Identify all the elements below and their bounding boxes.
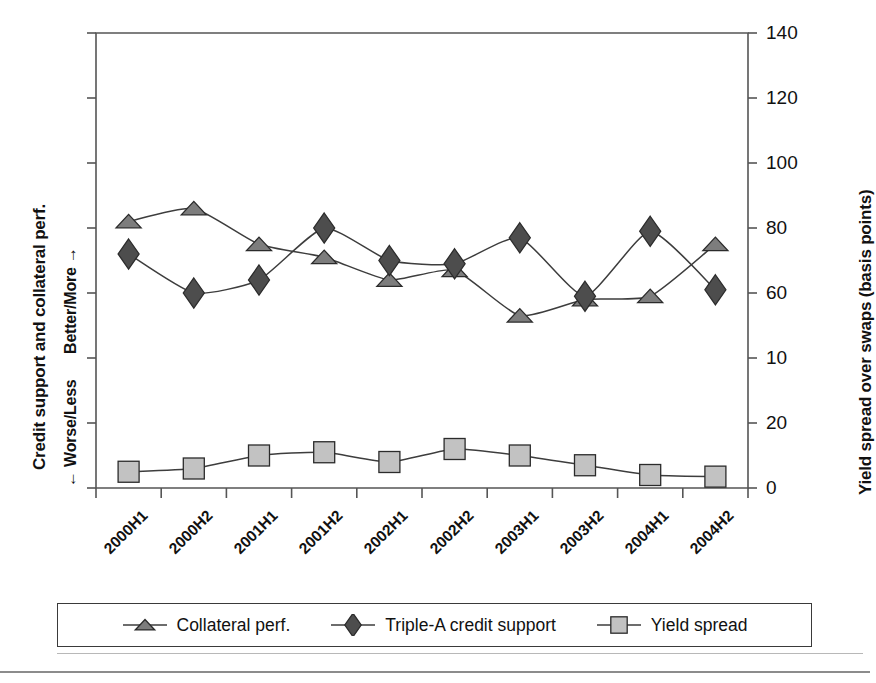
y-tick-label: 20 <box>766 412 787 434</box>
y-tick-label: 80 <box>766 217 787 239</box>
series-line-triangle <box>129 208 716 316</box>
y-tick-label: 10 <box>766 347 787 369</box>
legend-item: Collateral perf. <box>122 614 291 636</box>
chart-legend: Collateral perf.Triple-A credit supportY… <box>57 603 812 647</box>
legend-label: Yield spread <box>651 615 748 636</box>
diamond-marker <box>330 614 376 636</box>
triangle-marker <box>122 614 168 636</box>
series-line-square <box>129 449 716 477</box>
data-series <box>116 201 728 487</box>
series-markers-diamond <box>118 213 726 311</box>
series-markers-square <box>118 439 726 488</box>
legend-item: Yield spread <box>596 614 748 636</box>
plot-frame <box>96 33 748 488</box>
y-tick-label: 140 <box>766 22 798 44</box>
legend-label: Triple-A credit support <box>385 615 556 636</box>
y-tick-label: 60 <box>766 282 787 304</box>
y-tick-label: 0 <box>766 477 777 499</box>
y-tick-label: 100 <box>766 152 798 174</box>
series-markers-triangle <box>116 201 728 322</box>
footer-rule-thick <box>0 671 870 673</box>
footer-rule-thin <box>57 653 863 654</box>
legend-label: Collateral perf. <box>177 615 291 636</box>
legend-item: Triple-A credit support <box>330 614 556 636</box>
y-tick-label: 120 <box>766 87 798 109</box>
square-marker <box>596 614 642 636</box>
series-line-diamond <box>129 228 716 296</box>
axis-ticks <box>87 33 757 498</box>
